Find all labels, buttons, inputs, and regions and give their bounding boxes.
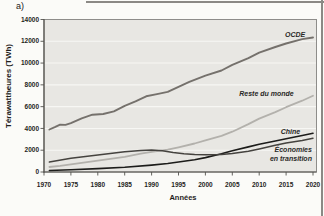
x-tick-label: 1975 [64, 181, 79, 188]
figure: a) 0200040006000800010000120001400019701… [0, 0, 324, 216]
x-tick-label: 2015 [279, 181, 294, 188]
figure-top-rule [86, 1, 324, 3]
x-tick-label: 1985 [117, 181, 132, 188]
figure-label: a) [16, 1, 24, 11]
series-label-reste-du-monde: Reste du monde [239, 90, 294, 97]
x-tick-label: 1995 [171, 181, 186, 188]
figure-right-rule [321, 0, 323, 216]
y-axis-title: Térawattheures (TWh) [4, 44, 13, 128]
series-label-ocde: OCDE [285, 31, 306, 38]
x-tick-label: 2010 [252, 181, 267, 188]
y-tick-label: 2000 [25, 146, 40, 153]
x-tick-label: 1990 [144, 181, 159, 188]
y-tick-label: 12000 [21, 37, 39, 44]
x-tick-label: 1970 [37, 181, 52, 188]
y-tick-label: 8000 [25, 81, 40, 88]
series-label-chine: Chine [281, 128, 301, 135]
x-tick-label: 1980 [91, 181, 106, 188]
y-tick-label: 4000 [25, 125, 40, 132]
line-chart: 0200040006000800010000120001400019701975… [0, 0, 324, 216]
x-axis-title: Années [169, 193, 196, 202]
x-tick-label: 2000 [198, 181, 213, 188]
y-tick-label: 10000 [21, 59, 39, 66]
y-tick-label: 0 [35, 168, 39, 175]
y-tick-label: 14000 [21, 16, 39, 23]
x-tick-label: 2020 [306, 181, 321, 188]
x-tick-label: 2005 [225, 181, 240, 188]
y-tick-label: 6000 [25, 103, 40, 110]
